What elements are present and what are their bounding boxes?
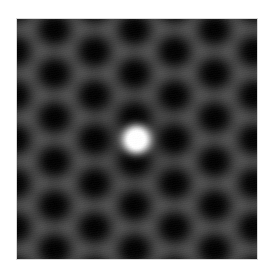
lattice-image-canvas — [17, 19, 257, 259]
lattice-image — [17, 19, 257, 259]
image-stage — [0, 0, 274, 277]
